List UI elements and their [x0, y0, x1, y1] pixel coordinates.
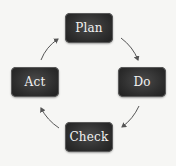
node-plan: Plan [65, 13, 113, 43]
arrow-plan-to-do [121, 38, 138, 60]
arrow-check-to-act [41, 108, 59, 128]
node-do: Do [118, 67, 166, 97]
arrow-act-to-plan [41, 39, 58, 60]
node-plan-label: Plan [75, 21, 103, 35]
node-act: Act [11, 67, 59, 97]
node-act-label: Act [25, 75, 46, 89]
node-do-label: Do [133, 75, 150, 89]
arrow-do-to-check [122, 106, 139, 127]
node-check: Check [65, 122, 113, 152]
node-check-label: Check [69, 130, 108, 144]
